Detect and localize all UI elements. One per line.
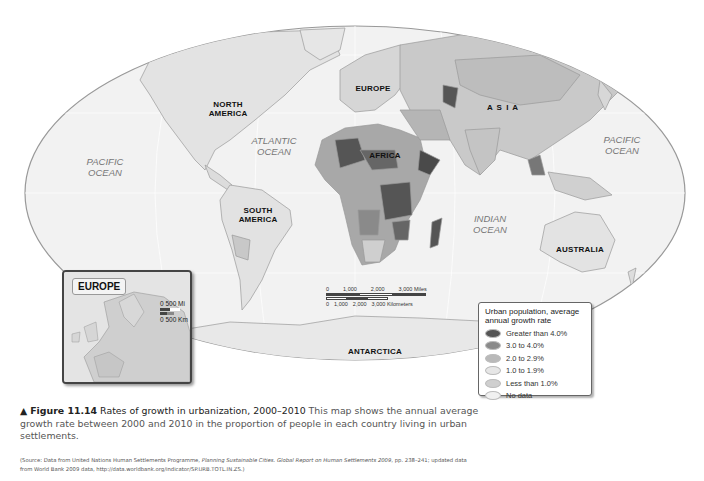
map-legend: Urban population, average annual growth … <box>478 302 592 396</box>
legend-title: Urban population, average annual growth … <box>485 307 585 325</box>
legend-item: Less than 1.0% <box>485 377 585 390</box>
scale-km-labels: 0 1,000 2,000 3,000 Kilometers <box>326 301 427 307</box>
map-scale-bar: 0 1,000 2,000 3,000 Miles 0 1,000 2,000 … <box>326 286 427 307</box>
label-indian-ocean: INDIANOCEAN <box>460 213 520 235</box>
legend-swatch-icon <box>485 354 501 363</box>
scale-miles-labels: 0 1,000 2,000 3,000 Miles <box>326 286 427 292</box>
label-antarctica: ANTARCTICA <box>340 347 410 356</box>
legend-swatch-icon <box>485 379 501 388</box>
legend-item: 1.0 to 1.9% <box>485 365 585 378</box>
legend-item: 3.0 to 4.0% <box>485 340 585 353</box>
legend-swatch-icon <box>485 329 501 338</box>
label-pacific-ocean-east: PACIFICOCEAN <box>592 134 652 156</box>
label-europe: EUROPE <box>348 84 398 93</box>
legend-item: Greater than 4.0% <box>485 327 585 340</box>
triangle-marker-icon: ▲ <box>20 405 27 416</box>
label-australia: AUSTRALIA <box>550 245 610 254</box>
legend-swatch-icon <box>485 391 501 400</box>
figure-number: Figure 11.14 <box>30 405 97 416</box>
legend-item: No data <box>485 390 585 403</box>
scale-miles-bar <box>326 293 426 296</box>
legend-swatch-icon <box>485 366 501 375</box>
source-citation: (Source: Data from United Nations Human … <box>20 456 480 473</box>
label-south-america: SOUTH AMERICA <box>228 206 288 224</box>
inset-title: EUROPE <box>72 278 126 295</box>
label-atlantic-ocean: ATLANTICOCEAN <box>244 135 304 157</box>
label-africa: AFRICA <box>360 151 410 160</box>
inset-scale: 0 500 Mi 0 500 Km <box>160 300 188 323</box>
legend-item: 2.0 to 2.9% <box>485 352 585 365</box>
label-asia: A S I A <box>478 103 528 112</box>
scale-km-bar <box>326 297 388 300</box>
figure-title: Rates of growth in urbanization, 2000–20… <box>100 405 306 416</box>
europe-inset-map: EUROPE 0 500 Mi 0 500 Km <box>62 270 192 384</box>
label-pacific-ocean-west: PACIFICOCEAN <box>75 156 135 178</box>
figure-caption: ▲ Figure 11.14 Rates of growth in urbani… <box>20 405 480 443</box>
label-north-america: NORTH AMERICA <box>198 100 258 118</box>
legend-swatch-icon <box>485 341 501 350</box>
